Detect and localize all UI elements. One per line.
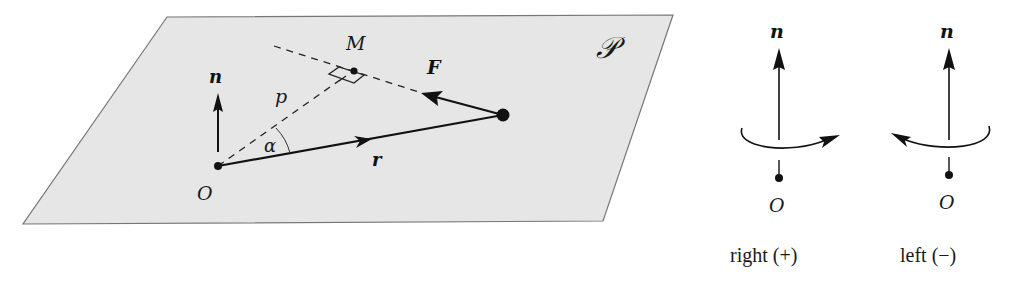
label-o-panel1: O xyxy=(769,194,785,216)
label-o-left: O xyxy=(197,182,213,204)
rotation-arrow-panel2 xyxy=(906,126,990,147)
label-o-panel2: O xyxy=(939,191,955,213)
point-of-application xyxy=(497,109,510,122)
rotation-arrow-panel1 xyxy=(741,128,826,148)
label-m: M xyxy=(345,32,366,54)
origin-dot-panel2 xyxy=(945,171,953,179)
label-r: r xyxy=(372,149,383,170)
caption-right-positive: right (+) xyxy=(730,244,797,267)
label-n-left: n xyxy=(209,66,222,87)
label-n-panel1: n xyxy=(770,20,784,42)
label-p: p xyxy=(275,85,287,107)
origin-o xyxy=(214,162,222,170)
panel-right-positive: n O right (+) xyxy=(730,20,840,267)
label-alpha: α xyxy=(264,135,276,156)
panel-left-negative: n O left (−) xyxy=(891,20,990,267)
origin-dot-panel1 xyxy=(775,174,783,182)
normal-arrowhead-panel2 xyxy=(943,48,955,70)
caption-left-negative: left (−) xyxy=(900,244,956,267)
label-n-panel2: n xyxy=(940,20,954,42)
point-m xyxy=(350,67,357,74)
normal-arrowhead-panel1 xyxy=(773,48,785,70)
label-f: F xyxy=(426,56,442,78)
moment-of-force-diagram: 𝒫 M r F n O p α n O right (+) n xyxy=(0,0,1028,285)
